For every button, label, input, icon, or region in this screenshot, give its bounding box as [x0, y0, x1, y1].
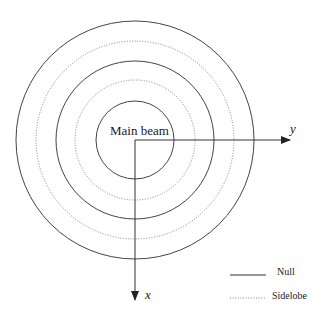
legend: Null Sidelobe — [230, 266, 308, 301]
axes: y x — [135, 121, 296, 302]
main-beam-label: Main beam — [110, 123, 169, 138]
legend-null-label: Null — [277, 266, 295, 277]
x-axis-label: x — [144, 287, 151, 302]
legend-sidelobe-label: Sidelobe — [272, 290, 308, 301]
y-axis-label: y — [288, 121, 296, 136]
beam-pattern-diagram: y x Main beam Null Sidelobe — [0, 0, 332, 322]
